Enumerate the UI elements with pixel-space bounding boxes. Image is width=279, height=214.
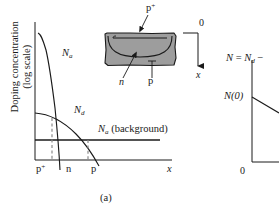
y-axis-label-line2: (log scale) <box>21 13 33 121</box>
x-axis-label-left: x <box>167 164 172 175</box>
inset-device-block <box>105 33 176 66</box>
right-panel-value-label: N(0) <box>224 91 243 102</box>
na-profile-curve <box>38 33 60 170</box>
inset-depth-axis <box>183 33 198 66</box>
inset-label-n: n <box>119 77 124 87</box>
curve-label-na: Na <box>62 48 73 60</box>
right-panel-origin-label: 0 <box>240 166 245 176</box>
inset-depth-axis-label: x <box>196 70 200 80</box>
y-axis-label: Doping concentration (log scale) <box>9 13 33 121</box>
region-label-p-plus: p+ <box>36 164 45 175</box>
y-axis-label-line1: Doping concentration <box>9 21 20 112</box>
region-label-n: n <box>66 164 71 175</box>
background-suffix: (background) <box>109 123 168 134</box>
figure-graphics <box>0 0 279 214</box>
region-label-p: p <box>91 164 96 175</box>
inset-label-p: p <box>148 76 153 87</box>
figure-caption: (a) <box>100 193 112 204</box>
right-panel-title: N = Nd − <box>226 53 263 65</box>
figure-container: Doping concentration (log scale) Na Nd N… <box>0 0 279 214</box>
curve-label-nd: Nd <box>74 105 85 117</box>
net-doping-curve <box>252 97 279 113</box>
inset-depth-origin-label: 0 <box>199 18 204 28</box>
curve-label-background: Na (background) <box>98 124 168 136</box>
inset-label-p-plus: p+ <box>146 3 155 14</box>
